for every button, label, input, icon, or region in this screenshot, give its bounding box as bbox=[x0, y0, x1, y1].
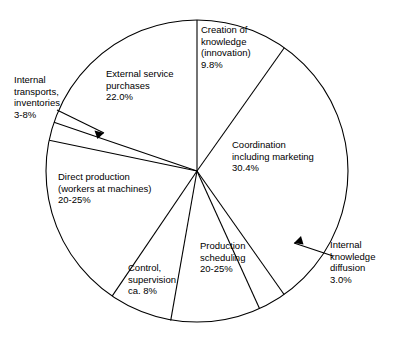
slice-label-coordination: Coordination including marketing 30.4% bbox=[232, 139, 328, 174]
slice-divider-transports-external bbox=[54, 122, 197, 171]
slice-label-creation: Creation of knowledge (innovation) 9.8% bbox=[201, 24, 281, 70]
slice-label-direct-production: Direct production (workers at machines) … bbox=[58, 171, 168, 206]
slice-divider-coordination-diffusion bbox=[197, 171, 284, 295]
slice-label-internal-transports: Internal transports, inventories 3-8% bbox=[14, 74, 86, 120]
slice-label-internal-knowledge-diffusion: Internal knowledge diffusion 3.0% bbox=[330, 239, 394, 285]
slice-label-external-service-purchases: External service purchases 22.0% bbox=[106, 68, 198, 103]
pie-chart-figure: Creation of knowledge (innovation) 9.8% … bbox=[0, 0, 395, 337]
slice-label-control-supervision: Control, supervision ca. 8% bbox=[128, 262, 192, 297]
leader-arrow-diffusion bbox=[294, 236, 333, 256]
slice-divider-scheduling-control bbox=[171, 171, 197, 321]
slice-divider-direct-transports bbox=[49, 140, 197, 171]
pie-chart-graphic bbox=[0, 0, 395, 337]
slice-label-production-scheduling: Production scheduling 20-25% bbox=[200, 240, 272, 275]
